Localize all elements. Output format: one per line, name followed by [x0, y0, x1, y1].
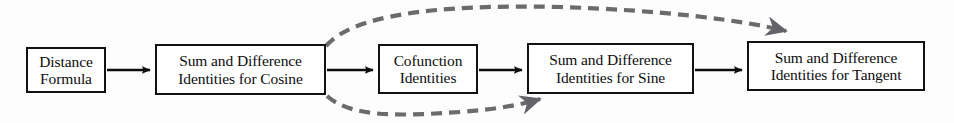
node-label-line: Distance: [39, 53, 92, 70]
dashed-connector-cosine-to-tangent-upper: [326, 7, 786, 46]
node-label-line: Sum and Difference: [549, 51, 672, 68]
node-label-line: Sum and Difference: [179, 52, 302, 69]
node-label-line: Identities for Tangent: [771, 66, 902, 83]
node-label-line: Cofunction: [394, 52, 463, 69]
trig-identities-flow-diagram: Distance Formula Sum and Difference Iden…: [0, 0, 954, 123]
node-cofunction-identities[interactable]: Cofunction Identities: [378, 44, 478, 94]
node-label-line: Identities: [400, 69, 457, 86]
node-label-line: Formula: [40, 70, 92, 87]
node-label-line: Identities for Cosine: [178, 70, 302, 87]
node-sum-difference-tangent[interactable]: Sum and Difference Identities for Tangen…: [747, 41, 925, 91]
node-label-line: Identities for Sine: [556, 69, 665, 86]
node-sum-difference-sine[interactable]: Sum and Difference Identities for Sine: [527, 43, 694, 94]
dashed-connector-cosine-to-sine-lower: [327, 96, 540, 115]
node-label-line: Sum and Difference: [775, 49, 898, 66]
node-distance-formula[interactable]: Distance Formula: [26, 47, 106, 93]
node-sum-difference-cosine[interactable]: Sum and Difference Identities for Cosine: [155, 44, 326, 95]
